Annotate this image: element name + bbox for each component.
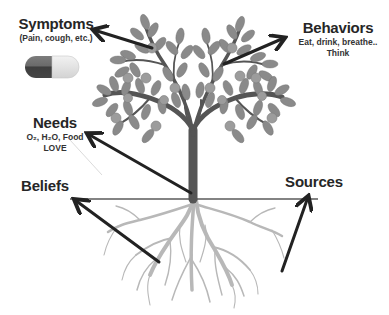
symptoms-title: Symptoms (14, 15, 98, 32)
behaviors-line2: Think (290, 48, 386, 59)
needs-title: Needs (22, 114, 88, 131)
behaviors-title: Behaviors (290, 19, 386, 36)
roots-illustration (104, 200, 284, 308)
pill-capsule-icon (25, 56, 79, 78)
arrow-to-needs (88, 134, 191, 193)
arrow-to-sources (282, 197, 308, 271)
behaviors-label-group: Behaviors Eat, drink, breathe.. Think (290, 19, 386, 59)
beliefs-label-group: Beliefs (20, 177, 70, 194)
sources-label-group: Sources (284, 173, 344, 190)
beliefs-title: Beliefs (20, 177, 70, 194)
sources-title: Sources (284, 173, 344, 190)
symptoms-subtitle: (Pain, cough, etc.) (14, 33, 98, 44)
arrow-to-beliefs (75, 200, 159, 262)
tree-diagram: Symptoms (Pain, cough, etc.) Behaviors E… (0, 0, 389, 315)
needs-label-group: Needs O₂, H₂O, Food LOVE (22, 114, 88, 154)
tree-illustration (91, 13, 297, 199)
needs-line2: LOVE (22, 143, 88, 154)
needs-line1: O₂, H₂O, Food (22, 132, 88, 143)
behaviors-line1: Eat, drink, breathe.. (290, 37, 386, 48)
symptoms-label-group: Symptoms (Pain, cough, etc.) (14, 15, 98, 44)
